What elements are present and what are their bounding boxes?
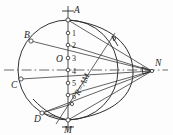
label-div-2: 2 xyxy=(72,41,76,50)
label-div-4: 4 xyxy=(72,67,76,76)
node-1 xyxy=(66,31,70,35)
label-N: N xyxy=(154,58,162,68)
node-4 xyxy=(66,68,70,72)
label-D: D xyxy=(33,114,41,124)
label-M: M xyxy=(63,125,73,135)
label-div-3: 3 xyxy=(72,54,76,63)
node-M xyxy=(66,118,70,122)
figure-root: A B C D M N O 1 2 3 4 5 6 R=AM xyxy=(0,0,173,135)
line-B-N xyxy=(31,41,152,71)
line-A-N xyxy=(68,20,152,71)
label-div-1: 1 xyxy=(72,29,76,38)
node-A xyxy=(66,18,70,22)
label-A: A xyxy=(73,5,80,15)
label-B: B xyxy=(24,30,30,40)
node-2 xyxy=(66,43,70,47)
node-5 xyxy=(66,81,70,85)
label-C: C xyxy=(11,80,18,90)
node-6 xyxy=(66,93,70,97)
node-C xyxy=(19,77,23,81)
line-2-N xyxy=(68,45,152,71)
chord-D-6 xyxy=(42,104,72,113)
chord-D-M xyxy=(42,113,68,120)
node-aux xyxy=(70,102,73,105)
node-3 xyxy=(66,56,70,60)
label-O: O xyxy=(56,54,63,64)
node-N xyxy=(150,69,153,72)
geometry-canvas: A B C D M N O 1 2 3 4 5 6 R=AM xyxy=(0,0,173,135)
line-D-N xyxy=(42,71,152,113)
